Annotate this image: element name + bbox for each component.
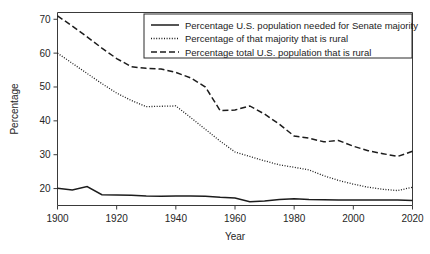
x-tick-label: 1960 — [224, 213, 247, 224]
y-axis-title: Percentage — [9, 83, 20, 135]
chart-legend: Percentage U.S. population needed for Se… — [144, 14, 418, 58]
x-tick-label: 1940 — [165, 213, 188, 224]
x-tick-label: 2000 — [342, 213, 365, 224]
legend-label-0: Percentage U.S. population needed for Se… — [185, 20, 418, 31]
y-tick-label: 20 — [39, 183, 51, 194]
y-tick-label: 50 — [39, 81, 51, 92]
x-tick-label: 1900 — [46, 213, 69, 224]
line-chart: 203040506070 190019201940196019802000202… — [0, 0, 430, 254]
series-line-1 — [58, 53, 413, 190]
series-line-0 — [58, 187, 413, 202]
x-axis-title: Year — [225, 231, 246, 242]
x-axis-ticks: 1900192019401960198020002020 — [46, 206, 424, 224]
x-tick-label: 1980 — [283, 213, 306, 224]
chart-figure: 203040506070 190019201940196019802000202… — [0, 0, 430, 254]
y-tick-label: 40 — [39, 115, 51, 126]
y-axis-ticks: 203040506070 — [39, 14, 57, 194]
y-tick-label: 30 — [39, 149, 51, 160]
x-tick-label: 1920 — [106, 213, 129, 224]
x-tick-label: 2020 — [401, 213, 424, 224]
legend-label-1: Percentage of that majority that is rura… — [185, 33, 348, 44]
y-tick-label: 60 — [39, 48, 51, 59]
y-tick-label: 70 — [39, 14, 51, 25]
legend-label-2: Percentage total U.S. population that is… — [185, 47, 371, 58]
